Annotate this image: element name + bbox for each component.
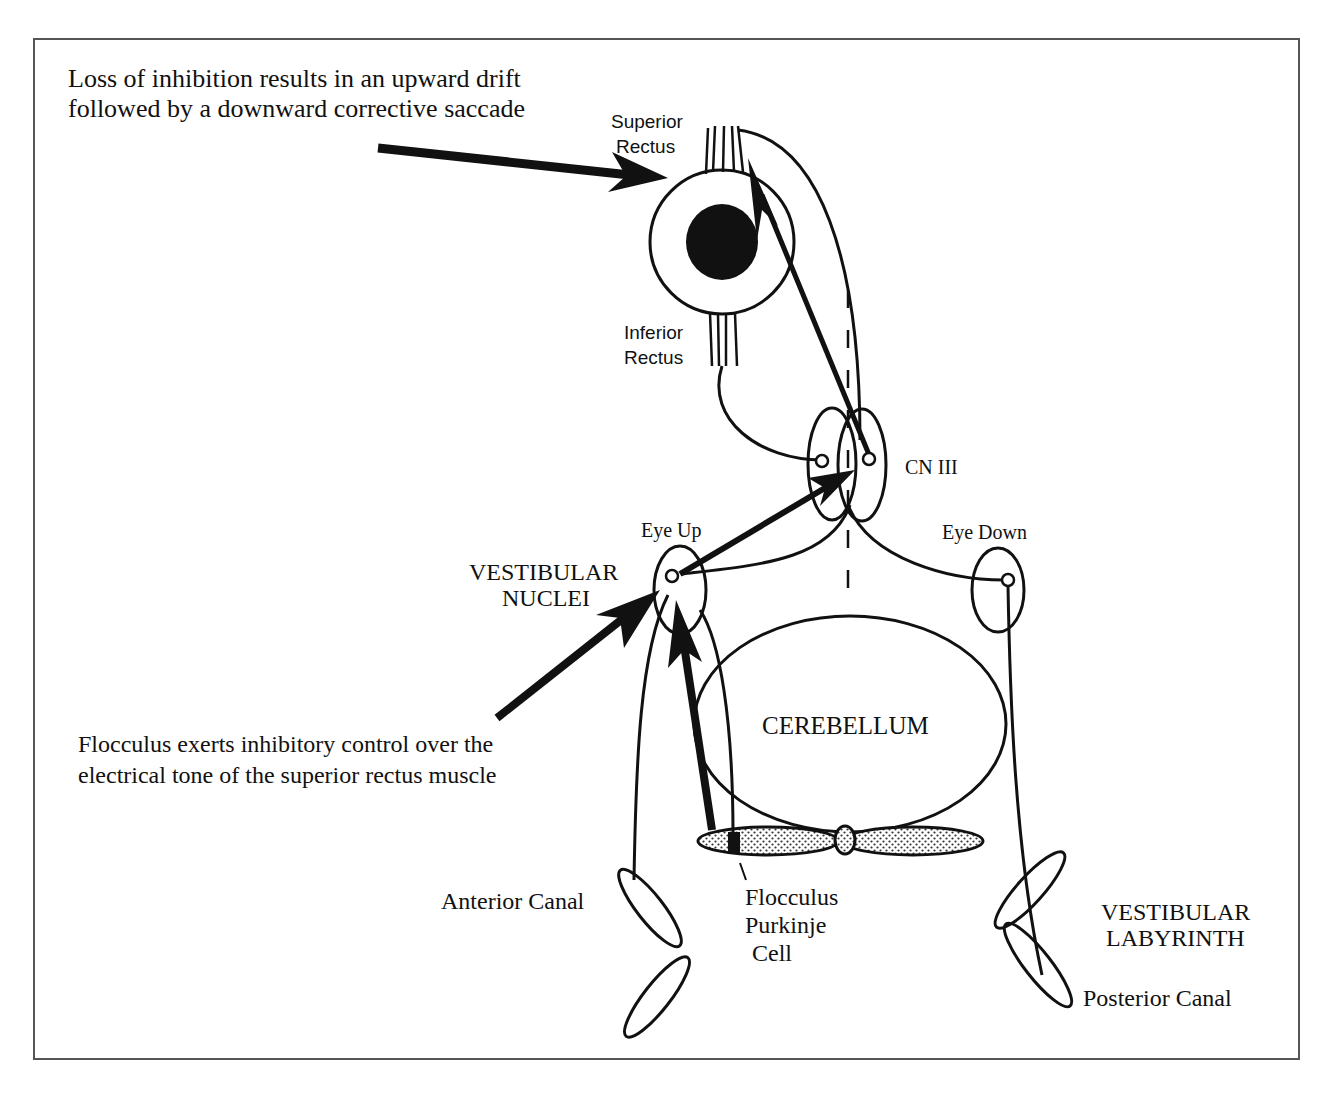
inferior-rectus-label-2: Rectus	[624, 347, 683, 368]
superior-rectus-label-2: Rectus	[616, 136, 675, 157]
eye-up-label: Eye Up	[641, 519, 702, 542]
purkinje-leader	[740, 863, 746, 880]
superior-rectus-label-1: Superior	[611, 111, 683, 132]
vestibular-nuclei-label-2: NUCLEI	[502, 585, 590, 611]
vestibular-nuclei-label-1: VESTIBULAR	[469, 559, 618, 585]
flocculus	[698, 826, 983, 855]
cn3-label: CN III	[905, 456, 958, 478]
anterior-canal-afferent	[634, 595, 668, 880]
bottom-annotation-line2: electrical tone of the superior rectus m…	[78, 762, 497, 788]
superior-rectus-muscle	[706, 126, 743, 174]
posterior-canal-label: Posterior Canal	[1083, 985, 1232, 1011]
eye-up-to-cn3-arrow	[680, 470, 855, 574]
anterior-canal	[610, 862, 698, 1044]
inferior-rectus-muscle	[710, 313, 737, 366]
top-annotation-line1: Loss of inhibition results in an upward …	[68, 64, 522, 93]
eyeball	[650, 170, 794, 314]
vestibular-diagram: Loss of inhibition results in an upward …	[0, 0, 1328, 1093]
top-annotation-line2: followed by a downward corrective saccad…	[68, 94, 525, 123]
cerebellum-label: CEREBELLUM	[762, 712, 929, 739]
eye-up-crossing-fiber	[682, 505, 850, 574]
vestibular-labyrinth-label-2: LABYRINTH	[1106, 925, 1245, 951]
eye-down-label: Eye Down	[942, 521, 1027, 544]
purkinje-to-eye-up-arrow	[668, 600, 712, 830]
posterior-canal-afferent	[1008, 586, 1042, 975]
eye-up-neuron	[666, 570, 678, 582]
purkinje-label-3: Cell	[752, 940, 792, 966]
anterior-canal-label: Anterior Canal	[441, 888, 585, 914]
bottom-annotation-line1: Flocculus exerts inhibitory control over…	[78, 731, 493, 757]
inferior-rectus-nerve	[719, 366, 822, 460]
inferior-rectus-label-1: Inferior	[624, 322, 684, 343]
purkinje-label-1: Flocculus	[745, 884, 838, 910]
eye-down-nucleus	[972, 548, 1024, 632]
vestibular-labyrinth-label-1: VESTIBULAR	[1101, 899, 1250, 925]
eye-down-neuron	[1002, 574, 1014, 586]
purkinje-label-2: Purkinje	[745, 912, 826, 938]
